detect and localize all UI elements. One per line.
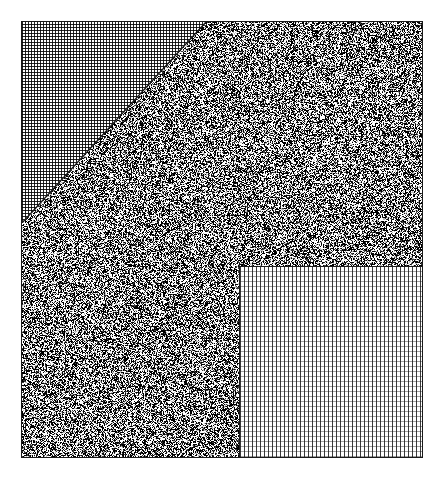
region-cross-hatch-grid <box>239 266 422 457</box>
region-dotted-triangle <box>22 22 206 223</box>
outer-frame <box>21 21 423 458</box>
figure-root: Texture Region Diagram <box>0 0 441 477</box>
figure-title: Texture Region Diagram <box>0 21 1 22</box>
